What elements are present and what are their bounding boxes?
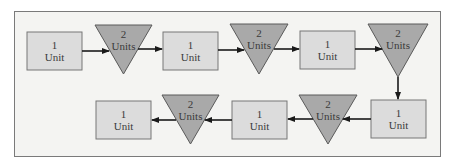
- label-tri4: 2 Units: [299, 98, 357, 122]
- label-line2: Units: [230, 39, 288, 51]
- label-line1: 1: [371, 107, 426, 119]
- label-tri5: 2 Units: [162, 98, 219, 122]
- label-box6: 1 Unit: [96, 108, 151, 132]
- label-line2: Unit: [163, 51, 218, 63]
- label-line1: 1: [163, 39, 218, 51]
- label-box1: 1 Unit: [27, 39, 82, 63]
- label-tri3: 2 Units: [368, 27, 428, 51]
- flow-diagram: [0, 0, 455, 167]
- label-line2: Unit: [27, 51, 82, 63]
- label-line1: 2: [299, 98, 357, 110]
- label-line2: Unit: [232, 120, 287, 132]
- label-line2: Unit: [371, 119, 426, 131]
- label-line1: 1: [27, 39, 82, 51]
- label-box4: 1 Unit: [371, 107, 426, 131]
- label-line1: 2: [95, 28, 152, 40]
- label-line2: Units: [95, 40, 152, 52]
- label-line1: 1: [232, 108, 287, 120]
- label-line1: 2: [368, 27, 428, 39]
- label-box5: 1 Unit: [232, 108, 287, 132]
- label-tri2: 2 Units: [230, 27, 288, 51]
- label-line1: 1: [96, 108, 151, 120]
- label-line1: 2: [230, 27, 288, 39]
- label-tri1: 2 Units: [95, 28, 152, 52]
- label-line2: Units: [162, 110, 219, 122]
- label-line1: 1: [300, 38, 355, 50]
- label-line2: Units: [299, 110, 357, 122]
- label-line2: Units: [368, 39, 428, 51]
- label-box2: 1 Unit: [163, 39, 218, 63]
- label-line2: Unit: [96, 120, 151, 132]
- label-line1: 2: [162, 98, 219, 110]
- label-box3: 1 Unit: [300, 38, 355, 62]
- label-line2: Unit: [300, 50, 355, 62]
